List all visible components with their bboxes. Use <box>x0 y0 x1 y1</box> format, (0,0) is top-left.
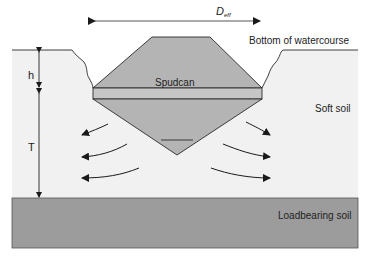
spudcan-band <box>93 88 262 99</box>
bottom-of-watercourse-label: Bottom of watercourse <box>249 36 349 46</box>
loadbearing-soil-layer <box>12 198 358 248</box>
spudcan-label: Spudcan <box>155 78 194 88</box>
h-label: h <box>28 70 34 81</box>
deff-label: Deff <box>216 6 231 18</box>
soft-soil-label: Soft soil <box>315 104 351 114</box>
loadbearing-soil-label: Loadbearing soil <box>278 211 351 221</box>
t-label: T <box>28 142 35 153</box>
